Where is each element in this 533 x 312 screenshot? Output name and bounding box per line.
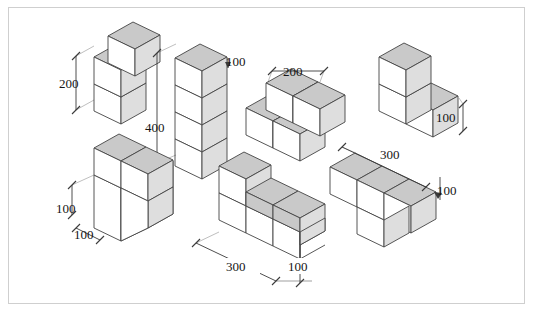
shape-7-t-shape (330, 153, 436, 247)
shape-3-z-shape (246, 69, 345, 161)
dimension-label: 300 (380, 147, 400, 162)
shape-2-tower (175, 44, 227, 179)
shape-5-wall-block (94, 134, 173, 241)
shape-6-l-row (219, 152, 325, 259)
dimension-100-tower-top: 100 (225, 54, 246, 69)
dimension-label: 400 (145, 120, 165, 135)
dimension-label: 100 (226, 54, 246, 69)
isometric-drawing-canvas: 200 400 100 (0, 0, 533, 312)
dimension-100-right-low: 100 (434, 177, 457, 200)
isometric-shapes-svg: 200 400 100 (0, 0, 533, 312)
shape-1-s-stack (94, 22, 160, 124)
dimension-label: 100 (56, 201, 76, 216)
dimension-200-left: 200 (59, 46, 94, 114)
dimension-label: 100 (436, 110, 456, 125)
dimension-label: 100 (74, 227, 94, 242)
dimension-label: 300 (226, 259, 246, 274)
dimension-label: 100 (288, 259, 308, 274)
dimension-label: 200 (283, 64, 303, 79)
dimension-100-wall-vertical: 100 (56, 175, 94, 219)
cube (273, 191, 325, 259)
dimension-label: 100 (437, 183, 457, 198)
dimension-label: 200 (59, 76, 79, 91)
